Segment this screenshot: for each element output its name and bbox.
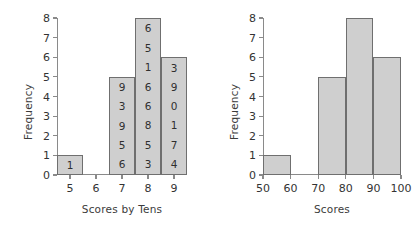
y-tick-mark [259, 135, 263, 136]
bar: 1 [57, 155, 83, 175]
x-tick-label: 90 [366, 182, 380, 195]
bar-digit-label: 5 [145, 140, 152, 151]
x-tick-label: 6 [93, 182, 100, 195]
y-tick-label: 0 [249, 169, 256, 182]
x-tick-mark [121, 175, 122, 179]
bar: 65166853 [135, 18, 161, 175]
right-y-axis-line [263, 18, 264, 175]
bar [346, 18, 374, 175]
y-tick-mark [53, 116, 57, 117]
y-tick-mark [259, 76, 263, 77]
y-tick-label: 4 [43, 90, 50, 103]
bar [263, 155, 291, 175]
x-tick-label: 80 [339, 182, 353, 195]
y-tick-label: 6 [43, 51, 50, 64]
x-tick-mark [400, 175, 401, 179]
x-tick-mark [345, 175, 346, 179]
x-tick-label: 60 [284, 182, 298, 195]
x-tick-mark [173, 175, 174, 179]
x-tick-mark [95, 175, 96, 179]
bar: 390174 [161, 57, 187, 175]
y-tick-mark [53, 135, 57, 136]
right-plot-area: 012345678 5060708090100 [263, 18, 401, 175]
x-tick-label: 7 [119, 182, 126, 195]
y-tick-mark [53, 37, 57, 38]
x-tick-label: 50 [256, 182, 270, 195]
bar-digit-label: 9 [171, 82, 178, 93]
y-tick-mark [259, 116, 263, 117]
bar [373, 57, 401, 175]
y-tick-mark [53, 57, 57, 58]
x-tick-mark [147, 175, 148, 179]
x-tick-label: 100 [391, 182, 412, 195]
y-tick-mark [53, 76, 57, 77]
bar [318, 77, 346, 175]
bar-digit-label: 1 [67, 160, 74, 171]
bar-digit-label: 8 [145, 120, 152, 131]
y-tick-label: 7 [43, 31, 50, 44]
bar-digit-label: 1 [171, 120, 178, 131]
left-y-axis-title: Frequency [22, 84, 34, 140]
x-tick-label: 9 [171, 182, 178, 195]
y-tick-label: 7 [249, 31, 256, 44]
bar-digit-label: 6 [145, 101, 152, 112]
right-chart-panel: Frequency 012345678 5060708090100 Scores [210, 0, 420, 231]
bar-digit-label: 5 [145, 43, 152, 54]
bar-digit-label: 1 [145, 62, 152, 73]
y-tick-mark [53, 96, 57, 97]
figure-canvas: Frequency 012345678 56789 19395665166853… [0, 0, 420, 231]
y-tick-mark [259, 96, 263, 97]
bar-digit-label: 0 [171, 101, 178, 112]
y-tick-mark [259, 37, 263, 38]
y-tick-mark [53, 17, 57, 18]
bar-digit-label: 6 [145, 82, 152, 93]
y-tick-label: 1 [249, 149, 256, 162]
x-tick-mark [290, 175, 291, 179]
y-tick-label: 2 [249, 129, 256, 142]
y-tick-label: 3 [249, 110, 256, 123]
y-tick-label: 4 [249, 90, 256, 103]
y-tick-mark [259, 57, 263, 58]
x-tick-mark [69, 175, 70, 179]
right-y-axis-title: Frequency [228, 84, 240, 140]
x-tick-label: 70 [311, 182, 325, 195]
x-tick-label: 5 [67, 182, 74, 195]
x-tick-mark [318, 175, 319, 179]
y-tick-mark [259, 17, 263, 18]
bar: 93956 [109, 77, 135, 175]
bar-digit-label: 3 [119, 101, 126, 112]
left-plot-area: 012345678 56789 19395665166853390174 [57, 18, 187, 175]
bar-digit-label: 7 [171, 140, 178, 151]
left-y-axis-line [57, 18, 58, 175]
y-tick-label: 0 [43, 169, 50, 182]
bar-digit-label: 6 [119, 159, 126, 170]
bar-digit-label: 9 [119, 82, 126, 93]
y-tick-label: 2 [43, 129, 50, 142]
x-tick-mark [262, 175, 263, 179]
left-chart-panel: Frequency 012345678 56789 19395665166853… [0, 0, 210, 231]
y-tick-label: 8 [43, 12, 50, 25]
y-tick-label: 8 [249, 12, 256, 25]
y-tick-label: 3 [43, 110, 50, 123]
y-tick-label: 5 [249, 70, 256, 83]
y-tick-label: 1 [43, 149, 50, 162]
bar-digit-label: 3 [145, 159, 152, 170]
x-tick-mark [373, 175, 374, 179]
bar-digit-label: 4 [171, 159, 178, 170]
x-tick-label: 8 [145, 182, 152, 195]
bar-digit-label: 3 [171, 63, 178, 74]
bar-digit-label: 5 [119, 140, 126, 151]
left-x-axis-title: Scores by Tens [82, 203, 162, 215]
y-tick-label: 6 [249, 51, 256, 64]
bar-digit-label: 6 [145, 23, 152, 34]
y-tick-label: 5 [43, 70, 50, 83]
bar-digit-label: 9 [119, 121, 126, 132]
right-x-axis-title: Scores [314, 203, 350, 215]
